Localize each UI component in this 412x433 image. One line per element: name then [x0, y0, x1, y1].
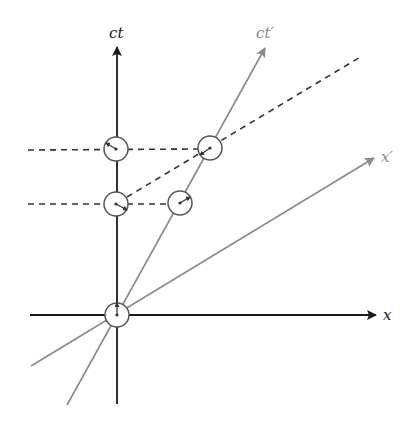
- ct-prime-axis-label: ct′: [256, 24, 274, 42]
- clock-moving-lower: [168, 191, 192, 215]
- clock-rest-upper: [104, 137, 128, 161]
- clock-moving-upper: [198, 136, 222, 160]
- clock-origin: [105, 303, 129, 327]
- ct-prime-axis: [67, 48, 265, 405]
- clock-rest-lower: [104, 192, 128, 216]
- x-axis-label: x: [383, 306, 392, 324]
- dashed-line-simultaneity-prime: [127, 56, 362, 197]
- x-prime-axis-label: x′: [381, 148, 393, 166]
- spacetime-diagram: ct ct′ x x′: [0, 0, 412, 433]
- dashed-lines: [28, 56, 362, 204]
- ct-axis-label: ct: [109, 24, 124, 42]
- x-prime-axis: [31, 158, 374, 366]
